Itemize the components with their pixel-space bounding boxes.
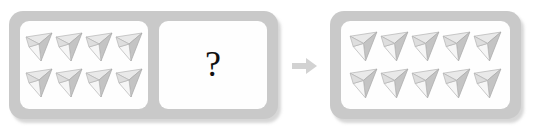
- plane-row: [25, 66, 144, 100]
- plane-row: [349, 29, 503, 64]
- right-container: [330, 11, 521, 119]
- paper-plane-icon: [411, 29, 441, 64]
- paper-plane-icon: [25, 30, 54, 64]
- unknown-quantity-panel: ?: [159, 21, 267, 109]
- right-arrow-icon: [292, 57, 318, 75]
- paper-plane-icon: [349, 66, 379, 101]
- left-container: ?: [9, 11, 278, 119]
- plane-grid-total: [341, 21, 510, 109]
- paper-plane-icon: [442, 66, 472, 101]
- paper-plane-icon: [85, 30, 114, 64]
- paper-plane-icon: [380, 29, 410, 64]
- paper-plane-icon: [473, 66, 503, 101]
- plane-grid-known: [20, 21, 148, 109]
- plane-row: [349, 66, 503, 101]
- paper-plane-icon: [85, 66, 114, 100]
- known-quantity-panel: [20, 21, 148, 109]
- paper-plane-icon: [115, 66, 144, 100]
- paper-plane-icon: [473, 29, 503, 64]
- paper-plane-icon: [115, 30, 144, 64]
- paper-plane-icon: [349, 29, 379, 64]
- paper-plane-icon: [411, 66, 441, 101]
- puzzle-canvas: ?: [0, 0, 537, 133]
- question-mark: ?: [159, 21, 267, 109]
- paper-plane-icon: [442, 29, 472, 64]
- total-quantity-panel: [341, 21, 510, 109]
- paper-plane-icon: [25, 66, 54, 100]
- paper-plane-icon: [55, 66, 84, 100]
- paper-plane-icon: [380, 66, 410, 101]
- paper-plane-icon: [55, 30, 84, 64]
- plane-row: [25, 30, 144, 64]
